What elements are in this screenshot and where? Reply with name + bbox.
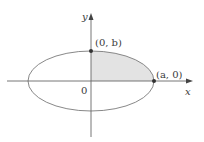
y-axis-arrow-icon [89, 13, 94, 20]
point-label-0-b: (0, b) [95, 37, 122, 48]
x-axis-arrow-icon [186, 79, 193, 84]
point-0-b [89, 49, 93, 53]
shaded-quadrant [91, 51, 154, 81]
ellipse-diagram: y x 0 (0, b) (a, 0) [0, 0, 204, 142]
x-axis-label: x [185, 86, 191, 97]
origin-label: 0 [81, 85, 87, 96]
point-label-a-0: (a, 0) [156, 69, 183, 80]
y-axis-label: y [81, 11, 88, 22]
